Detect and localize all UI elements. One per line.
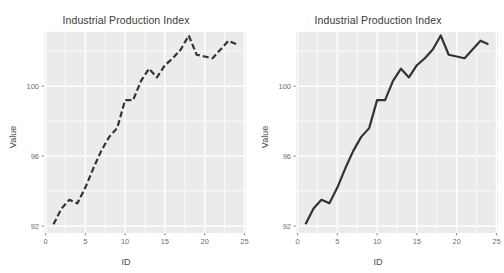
x-tick-label: 0	[44, 237, 48, 246]
y-tick-label: 92	[31, 222, 39, 231]
x-tick-label: 25	[240, 237, 248, 246]
x-tick-label: 5	[83, 237, 87, 246]
y-axis-label: Value	[8, 125, 18, 147]
x-tick-label: 10	[121, 237, 129, 246]
x-tick-label: 15	[413, 237, 421, 246]
x-tick-label: 0	[296, 237, 300, 246]
x-tick-label: 10	[373, 237, 381, 246]
y-tick-label: 96	[283, 152, 291, 161]
x-tick-label: 25	[492, 237, 500, 246]
y-tick-label: 100	[26, 82, 39, 91]
left-plot-area: 92961000510152025	[0, 0, 252, 273]
figure-container: Industrial Production Index 929610005101…	[0, 0, 504, 273]
x-tick-label: 20	[452, 237, 460, 246]
y-tick-label: 92	[283, 222, 291, 231]
x-tick-label: 5	[335, 237, 339, 246]
right-panel: Industrial Production Index 929610005101…	[252, 0, 504, 273]
x-tick-label: 15	[161, 237, 169, 246]
y-axis-label-2: Value	[260, 125, 270, 147]
y-tick-label: 100	[278, 82, 291, 91]
x-axis-label: ID	[0, 257, 252, 267]
x-axis-label-2: ID	[252, 257, 504, 267]
y-tick-label: 96	[31, 152, 39, 161]
left-panel: Industrial Production Index 929610005101…	[0, 0, 252, 273]
x-tick-label: 20	[200, 237, 208, 246]
right-plot-area: 92961000510152025	[252, 0, 504, 273]
